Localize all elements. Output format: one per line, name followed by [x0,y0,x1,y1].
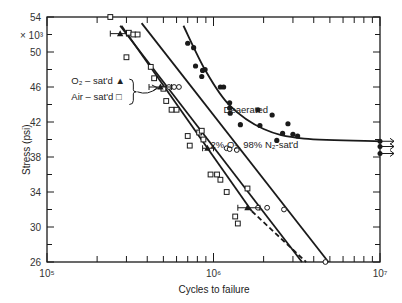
extrapolated-curve [252,211,306,262]
x-axis-title: Cycles to failure [178,284,250,295]
filled-circle-marker [221,84,226,89]
annotation-label: 2% O₂, 98% N₂-sat'd [211,139,299,150]
open-circle-marker [323,260,328,265]
filled-circle-marker [238,122,243,127]
y-tick-label: 54 [30,12,42,23]
open-circle-marker [172,85,177,90]
y-tick-label: 50 [30,47,42,58]
y-tick-label: 26 [30,257,42,268]
open-square-marker [233,214,238,219]
open-square-marker [174,107,179,112]
filled-circle-marker [185,41,190,46]
open-square-marker [148,64,153,69]
filled-circle-marker [193,63,198,68]
open-circle-marker [177,85,182,90]
annotation-label: Deaerated [224,104,268,115]
x-tick-label: 10⁷ [373,268,388,279]
y-tick-label: 46 [30,82,42,93]
open-square-marker [215,172,220,177]
filled-circle-marker [191,45,196,50]
open-square-marker [164,99,169,104]
open-square-marker [108,15,113,20]
filled-circle-marker [285,121,290,126]
y-tick-label: 34 [30,187,42,198]
filled-circle-marker [199,74,204,79]
x-tick-label: 10⁵ [39,268,54,279]
annotation-label: O₂ – sat'd ▲ [71,75,124,86]
fit-curve [183,26,380,142]
open-square-marker [185,134,190,139]
open-square-marker [152,76,157,81]
open-square-marker [245,186,250,191]
arrow-icon [152,85,158,91]
legend-brace [129,79,136,104]
open-square-marker [201,137,206,142]
filled-circle-marker [257,123,262,128]
y-tick-label: 30 [30,222,42,233]
y-axis-title: Stress (psi) [21,124,32,175]
open-square-marker [224,190,229,195]
annotation-label: Air – sat'd □ [71,91,122,102]
open-square-marker [218,177,223,182]
open-square-marker [187,143,192,148]
y-multiplier-label: × 10³ [20,30,44,41]
filled-circle-marker [280,131,285,136]
open-circle-marker [265,205,270,210]
open-circle-marker [282,207,287,212]
open-square-marker [235,221,240,226]
open-square-marker [135,32,140,37]
open-square-marker [169,107,174,112]
open-square-marker [124,55,129,60]
x-tick-label: 10⁶ [206,268,221,279]
filled-circle-marker [290,132,295,137]
filled-circle-marker [270,112,275,117]
filled-circle-marker [202,67,207,72]
fatigue-chart: 5450464238343026 10⁵10⁶10⁷ Deaerated2% O… [0,0,402,303]
open-square-marker [208,172,213,177]
open-square-marker [199,128,204,133]
filled-circle-marker [295,133,300,138]
